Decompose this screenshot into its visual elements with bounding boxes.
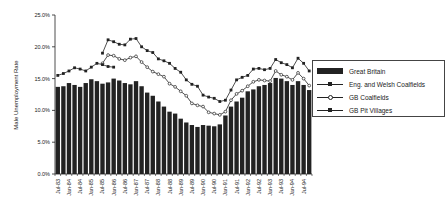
data-point xyxy=(123,59,126,62)
data-point xyxy=(218,113,221,116)
bar xyxy=(128,84,132,174)
bar xyxy=(274,78,278,174)
data-point xyxy=(218,100,221,103)
data-point xyxy=(297,71,300,74)
bar xyxy=(78,87,82,174)
data-point xyxy=(241,89,244,92)
data-point xyxy=(179,71,182,74)
bar xyxy=(111,79,115,174)
x-tick-label: Jul-93 xyxy=(278,179,284,194)
bar xyxy=(89,79,93,174)
line-open-marker-icon xyxy=(317,92,343,102)
data-point xyxy=(196,85,199,88)
x-tick-label: Jan-87 xyxy=(133,179,139,196)
bar xyxy=(173,114,177,174)
bar xyxy=(84,83,88,174)
data-point xyxy=(129,56,132,59)
data-point xyxy=(302,62,305,65)
bar xyxy=(195,127,199,174)
bar xyxy=(134,81,138,174)
bar xyxy=(117,81,121,174)
data-point xyxy=(230,89,233,92)
data-point xyxy=(174,67,177,70)
data-point xyxy=(202,94,205,97)
bar xyxy=(56,87,60,174)
data-point xyxy=(285,63,288,66)
x-tick-label: Jul-94 xyxy=(301,179,307,194)
bar xyxy=(246,91,250,174)
x-tick-label: Jan-84 xyxy=(66,179,72,196)
data-point xyxy=(263,79,266,82)
data-point xyxy=(101,52,104,55)
line-filled-marker-icon xyxy=(317,79,343,89)
data-point xyxy=(107,38,110,41)
data-point xyxy=(213,112,216,115)
data-point xyxy=(151,70,154,73)
data-point xyxy=(308,84,311,87)
data-point xyxy=(258,67,261,70)
bar xyxy=(212,126,216,174)
x-tick-label: Jul-86 xyxy=(122,179,128,194)
data-point xyxy=(101,63,104,66)
bar xyxy=(301,85,305,174)
data-point xyxy=(263,68,266,71)
bar-swatch-icon xyxy=(317,66,343,76)
data-point xyxy=(297,57,300,60)
x-tick-label: Jul-84 xyxy=(77,179,83,194)
data-point xyxy=(84,70,87,73)
bar xyxy=(167,112,171,174)
bar xyxy=(229,107,233,174)
data-point xyxy=(274,58,277,61)
bar xyxy=(268,83,272,174)
line-series xyxy=(56,37,310,116)
y-tick-label: 0.0% xyxy=(37,171,50,177)
data-point xyxy=(146,49,149,52)
data-point xyxy=(291,78,294,81)
line-filled-marker-icon xyxy=(317,105,343,115)
x-tick-label: Jan-88 xyxy=(155,179,161,196)
x-tick-label: Jan-92 xyxy=(245,179,251,196)
data-point xyxy=(269,80,272,83)
data-point xyxy=(258,78,261,81)
data-point xyxy=(163,59,166,62)
bar xyxy=(72,85,76,174)
bar xyxy=(251,89,255,174)
y-tick-label: 15.0% xyxy=(34,76,50,82)
y-axis: 0.0%5.0%10.0%15.0%20.0%25.0% xyxy=(34,12,55,177)
legend-item-gb-pit-villages: GB Pit Villages xyxy=(317,105,392,115)
legend-label: Eng. and Welsh Coalfields xyxy=(349,81,425,88)
data-point xyxy=(246,85,249,88)
data-point xyxy=(235,92,238,95)
legend: Great Britain Eng. and Welsh Coalfields … xyxy=(312,60,445,117)
legend-item-eng-welsh-coalfields: Eng. and Welsh Coalfields xyxy=(317,79,425,89)
data-point xyxy=(202,105,205,108)
data-point xyxy=(190,102,193,105)
x-tick-label: Jul-83 xyxy=(55,179,61,194)
bar xyxy=(145,93,149,174)
bar xyxy=(106,82,110,174)
bar xyxy=(123,83,127,174)
x-tick-label: Jul-85 xyxy=(99,179,105,194)
bar xyxy=(262,85,266,174)
data-point xyxy=(224,99,227,102)
data-point xyxy=(107,54,110,57)
legend-item-great-britain: Great Britain xyxy=(317,66,386,76)
data-point xyxy=(157,57,160,60)
data-point xyxy=(308,70,311,73)
data-point xyxy=(280,73,283,76)
bar xyxy=(162,107,166,174)
data-point xyxy=(213,97,216,100)
data-point xyxy=(252,68,255,71)
bar xyxy=(67,83,71,174)
x-tick-label: Jul-87 xyxy=(144,179,150,194)
data-point xyxy=(241,76,244,79)
bar xyxy=(206,126,210,174)
data-point xyxy=(146,66,149,69)
data-point xyxy=(302,77,305,80)
bar xyxy=(240,98,244,174)
data-point xyxy=(207,96,210,99)
data-point xyxy=(280,61,283,64)
data-point xyxy=(252,80,255,83)
legend-label: GB Coalfields xyxy=(349,94,389,101)
legend-label: Great Britain xyxy=(349,68,386,75)
